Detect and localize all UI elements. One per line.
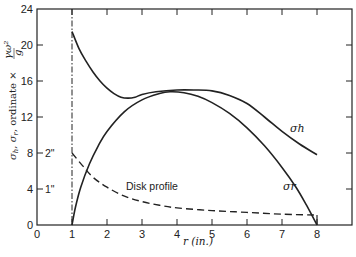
- axis-ticks: [37, 9, 352, 225]
- x-axis-label: r (in.): [183, 235, 213, 247]
- sigma-h-label: σh: [290, 122, 305, 135]
- series-disk-profile: [72, 153, 317, 215]
- svg-text:g: g: [12, 50, 23, 56]
- x-tick-label: 6: [244, 228, 250, 240]
- sigma-r-label: σr: [283, 180, 297, 193]
- plot-frame: [37, 9, 352, 225]
- y-tick-label: 4: [27, 183, 33, 195]
- secondary-y-label-1in: 1": [45, 183, 55, 195]
- y-tick-label: 8: [27, 147, 33, 159]
- x-tick-label: 0: [34, 228, 40, 240]
- data-series: [72, 32, 317, 226]
- y-axis-label: σh, σr, ordinate × γω² g: [2, 41, 23, 160]
- secondary-y-label-2in: 2": [45, 147, 55, 159]
- svg-text:σh, σr, ordinate ×: σh, σr, ordinate ×: [7, 71, 20, 160]
- x-tick-label: 4: [174, 228, 180, 240]
- x-tick-label: 2: [104, 228, 110, 240]
- x-tick-label: 1: [69, 228, 75, 240]
- series-σr: [72, 92, 317, 225]
- x-tick-label: 7: [279, 228, 285, 240]
- stress-distribution-chart: 01234567804812162024 σh σr Disk profile …: [0, 0, 356, 257]
- y-tick-label: 0: [27, 219, 33, 231]
- disk-profile-label: Disk profile: [126, 180, 178, 192]
- series-σh: [72, 32, 317, 155]
- axis-tick-labels: 01234567804812162024: [21, 3, 320, 240]
- y-tick-label: 24: [21, 3, 33, 15]
- y-tick-label: 20: [21, 39, 33, 51]
- y-tick-label: 12: [21, 111, 33, 123]
- x-tick-label: 3: [139, 228, 145, 240]
- y-tick-label: 16: [21, 75, 33, 87]
- x-tick-label: 8: [314, 228, 320, 240]
